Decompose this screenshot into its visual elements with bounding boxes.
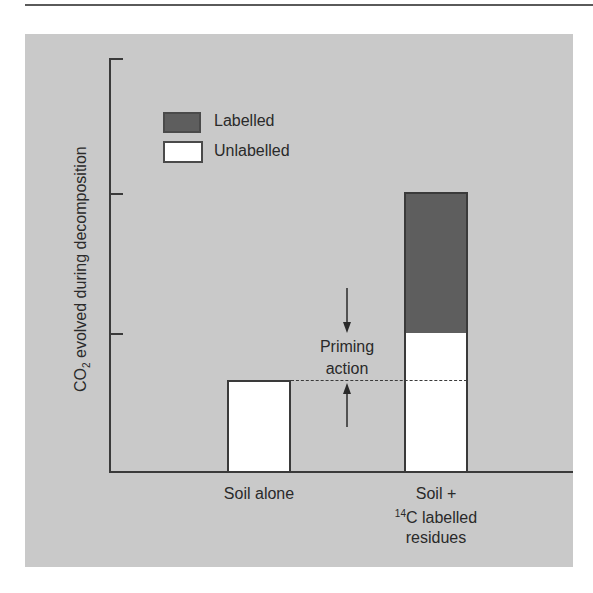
priming-action-label: Priming action [297,336,397,380]
arrow-down-icon [340,288,354,334]
x-axis [109,471,573,473]
legend-swatch-unlabelled [163,141,203,163]
x-label-line2-text: C labelled [406,509,477,526]
legend-swatch-labelled [163,112,201,133]
top-rule [25,4,593,6]
priming-label-line1: Priming [297,336,397,358]
x-label-soil-alone-text: Soil alone [199,484,319,504]
y-tick-top [109,58,123,60]
bar-soil-alone [227,380,291,473]
y-axis-label: CO2 evolved during decomposition [72,146,92,392]
bar-segment-labelled [406,194,466,333]
legend-label-unlabelled: Unlabelled [214,142,290,160]
arrow-up-icon [340,383,354,427]
bar-soil-plus-residues [404,192,468,473]
y-tick-1 [109,333,123,335]
x-label-soil-alone: Soil alone [199,484,319,504]
x-label-line2: 14C labelled [371,504,501,528]
legend-label-labelled: Labelled [214,112,275,130]
y-tick-2 [109,193,123,195]
x-label-superscript: 14 [395,508,406,519]
y-label-subscript: 2 [81,362,92,368]
priming-reference-line [291,380,467,381]
priming-label-line2: action [297,358,397,380]
y-label-rest: evolved during decomposition [72,146,89,362]
x-label-line3: residues [371,528,501,548]
x-label-line1: Soil + [371,484,501,504]
y-axis [109,58,111,472]
y-label-co: CO [72,368,89,392]
x-label-soil-plus-residues: Soil + 14C labelled residues [371,484,501,548]
